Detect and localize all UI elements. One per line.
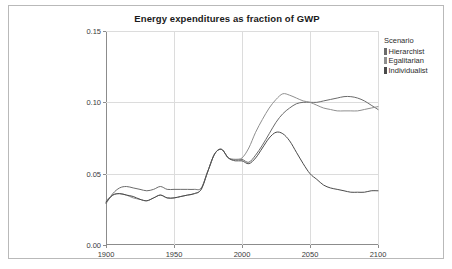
series-line-individualist [106,132,378,202]
x-tick-label: 2100 [370,250,387,259]
legend-swatch-icon [384,48,387,55]
legend-item-egalitarian[interactable]: Egalitarian [384,56,428,66]
legend-title: Scenario [384,36,428,46]
legend-swatch-icon [384,57,387,64]
legend-item-label: Hierarchist [389,47,425,57]
x-tick-label: 2000 [234,250,251,259]
legend-item-individualist[interactable]: Individualist [384,66,428,76]
gridline-vertical [378,31,379,245]
x-tick-label: 2050 [302,250,319,259]
legend-item-hierarchist[interactable]: Hierarchist [384,47,428,57]
y-tick-label: 0.05 [86,169,101,178]
x-tick-mark [174,245,175,248]
x-tick-label: 1950 [166,250,183,259]
series-lines [106,31,378,245]
series-line-hierarchist [106,96,378,203]
x-tick-mark [106,245,107,248]
chart-frame: Energy expenditures as fraction of GWP 0… [8,5,444,259]
plot-area: 0.000.050.100.1519001950200020502100 [106,31,378,245]
x-tick-mark [242,245,243,248]
legend-item-label: Egalitarian [389,56,424,66]
y-tick-label: 0.10 [86,98,101,107]
y-tick-label: 0.00 [86,241,101,250]
legend-items: HierarchistEgalitarianIndividualist [384,47,428,76]
x-tick-mark [310,245,311,248]
x-tick-mark [378,245,379,248]
legend-swatch-icon [384,67,387,74]
y-tick-label: 0.15 [86,27,101,36]
legend-item-label: Individualist [389,66,428,76]
x-tick-label: 1900 [98,250,115,259]
chart-title: Energy expenditures as fraction of GWP [9,13,445,24]
legend: Scenario HierarchistEgalitarianIndividua… [384,36,428,75]
series-line-egalitarian [106,94,378,201]
